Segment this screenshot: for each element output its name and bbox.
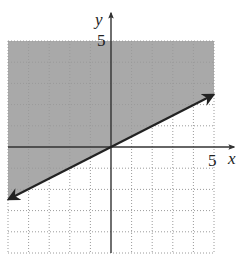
y-tick-label: 5 [97,31,106,50]
y-axis-label: y [93,10,103,29]
x-tick-label: 5 [208,151,217,170]
inequality-graph: y 5 5 x [0,0,248,263]
x-axis-label: x [227,149,236,168]
